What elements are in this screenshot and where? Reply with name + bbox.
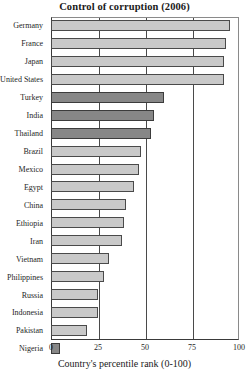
bar: [51, 74, 224, 85]
category-label: Vietnam: [0, 250, 47, 268]
x-axis-ticks: 0255075100: [51, 341, 239, 355]
bar: [51, 325, 87, 336]
bar: [51, 199, 126, 210]
bar-row: [51, 250, 239, 268]
bar-row: [51, 71, 239, 89]
bar-row: [51, 322, 239, 340]
category-axis-labels: GermanyFranceJapanUnited StatesTurkeyInd…: [0, 17, 47, 340]
category-label: Philippines: [0, 268, 47, 286]
category-label: Russia: [0, 286, 47, 304]
x-axis-title: Country's percentile rank (0-100): [0, 358, 249, 369]
bar: [51, 289, 98, 300]
bar-row: [51, 161, 239, 179]
bar-row: [51, 17, 239, 35]
bar-row: [51, 178, 239, 196]
bar-row: [51, 286, 239, 304]
bar: [51, 128, 151, 139]
category-label: Nigeria: [0, 340, 47, 358]
bar: [51, 307, 98, 318]
category-label: Brazil: [0, 143, 47, 161]
category-label: France: [0, 35, 47, 53]
bar-row: [51, 268, 239, 286]
bar: [51, 56, 224, 67]
category-label: Thailand: [0, 125, 47, 143]
bar: [51, 38, 226, 49]
bar: [51, 20, 230, 31]
category-label: China: [0, 196, 47, 214]
category-label: Egypt: [0, 178, 47, 196]
bar-row: [51, 53, 239, 71]
x-tick-label-100: 100: [233, 343, 245, 352]
x-tick-label-50: 50: [141, 343, 149, 352]
category-label: Turkey: [0, 89, 47, 107]
x-tick-label-75: 75: [188, 343, 196, 352]
bar: [51, 181, 134, 192]
bar-row: [51, 214, 239, 232]
bar-row: [51, 143, 239, 161]
category-label: United States: [0, 71, 47, 89]
bar-row: [51, 196, 239, 214]
x-tick-label-25: 25: [94, 343, 102, 352]
bar-row: [51, 107, 239, 125]
category-label: Japan: [0, 53, 47, 71]
category-label: Mexico: [0, 161, 47, 179]
bar: [51, 146, 141, 157]
category-label: Germany: [0, 17, 47, 35]
bar-row: [51, 232, 239, 250]
bar-row: [51, 35, 239, 53]
category-label: India: [0, 107, 47, 125]
category-label: Pakistan: [0, 322, 47, 340]
bar-row: [51, 304, 239, 322]
category-label: Iran: [0, 232, 47, 250]
chart-container: Control of corruption (2006) GermanyFran…: [0, 0, 249, 381]
bar: [51, 235, 122, 246]
bar-row: [51, 125, 239, 143]
chart-title: Control of corruption (2006): [0, 1, 249, 12]
x-tick-label-0: 0: [49, 343, 53, 352]
bar: [51, 164, 139, 175]
category-label: Indonesia: [0, 304, 47, 322]
bar: [51, 92, 164, 103]
bar: [51, 217, 124, 228]
bar-series: [51, 17, 239, 340]
bar: [51, 253, 109, 264]
bar: [51, 271, 104, 282]
category-label: Ethiopia: [0, 214, 47, 232]
bar-row: [51, 89, 239, 107]
bar: [51, 110, 154, 121]
